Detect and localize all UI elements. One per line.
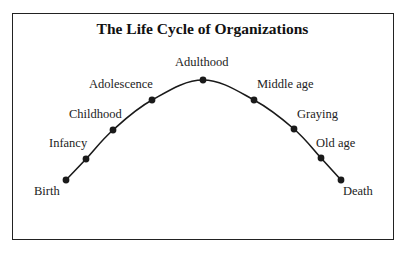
stage-label-middle-age: Middle age xyxy=(257,77,314,92)
stage-label-graying: Graying xyxy=(297,107,338,122)
stage-point-icon xyxy=(63,177,70,184)
stage-label-childhood: Childhood xyxy=(69,107,122,122)
stage-point-icon xyxy=(83,156,90,163)
stage-label-birth: Birth xyxy=(34,184,60,199)
stage-point-icon xyxy=(338,177,345,184)
stage-label-adolescence: Adolescence xyxy=(89,77,153,92)
stage-label-infancy: Infancy xyxy=(49,136,87,151)
stage-point-icon xyxy=(200,77,207,84)
life-cycle-curve xyxy=(0,0,405,253)
stage-label-adulthood: Adulthood xyxy=(175,55,228,70)
stage-label-death: Death xyxy=(343,184,373,199)
stage-point-icon xyxy=(318,155,325,162)
stage-label-old-age: Old age xyxy=(316,136,355,151)
curve-line xyxy=(66,80,341,180)
stage-point-icon xyxy=(110,127,117,134)
stage-point-icon xyxy=(291,126,298,133)
stage-point-icon xyxy=(251,97,258,104)
stage-point-icon xyxy=(149,97,156,104)
